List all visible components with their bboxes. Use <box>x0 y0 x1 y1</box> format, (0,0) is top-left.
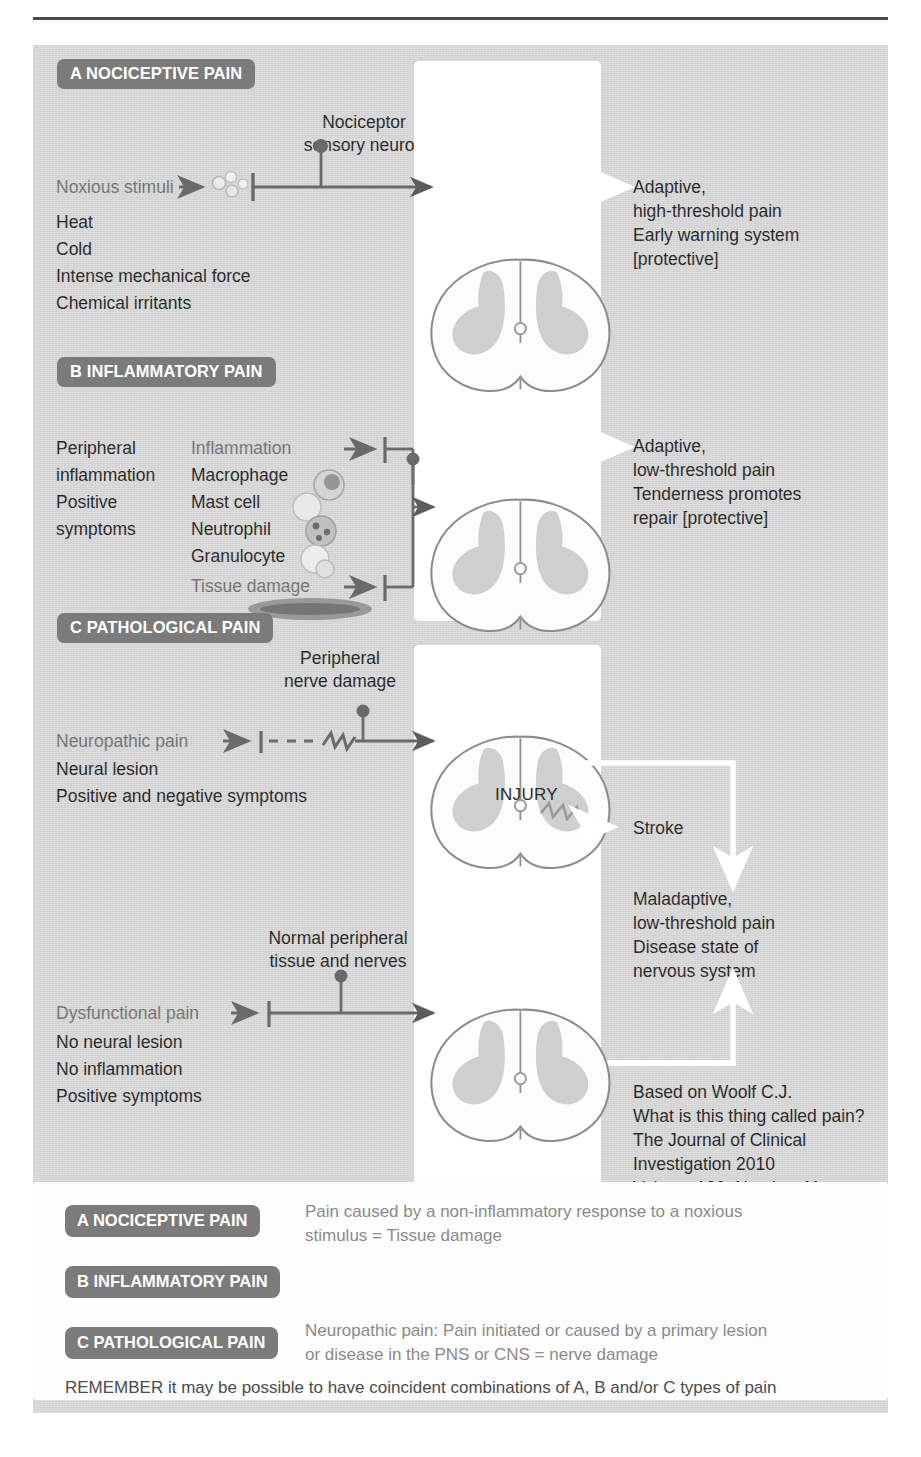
injury-label: INJURY <box>495 785 558 805</box>
legend-text-a: Pain caused by a non-inflammatory respon… <box>305 1200 743 1248</box>
legend-pill-c: C PATHOLOGICAL PAIN <box>65 1327 278 1359</box>
diagram-page: A NOCICEPTIVE PAIN Nociceptor sensory ne… <box>0 0 921 1457</box>
legend-pill-b: B INFLAMMATORY PAIN <box>65 1266 280 1298</box>
top-divider-rule <box>33 17 888 20</box>
legend-text-c: Neuropathic pain: Pain initiated or caus… <box>305 1319 767 1367</box>
legend-pill-a: A NOCICEPTIVE PAIN <box>65 1205 260 1237</box>
legend-remember-note: REMEMBER it may be possible to have coin… <box>65 1378 777 1398</box>
legend-panel: A NOCICEPTIVE PAIN Pain caused by a non-… <box>33 1182 888 1400</box>
section-b-pill: B INFLAMMATORY PAIN <box>57 357 276 387</box>
section-c-pill: C PATHOLOGICAL PAIN <box>57 613 273 643</box>
section-a-pill: A NOCICEPTIVE PAIN <box>57 59 255 89</box>
